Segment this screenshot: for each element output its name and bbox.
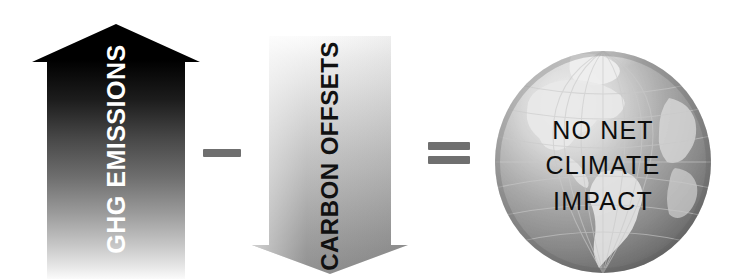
equals-operator [428,140,470,166]
carbon-neutrality-diagram: GHG EMISSIONS [0,0,737,279]
minus-bar [203,149,241,157]
emissions-arrow-label: GHG EMISSIONS [102,44,131,253]
globe: NO NET CLIMATE IMPACT [493,50,713,274]
offsets-arrow-label: CARBON OFFSETS [316,41,344,271]
equals-bar-top [428,142,470,150]
emissions-arrow: GHG EMISSIONS [30,18,202,279]
minus-operator [203,144,241,160]
offsets-arrow: CARBON OFFSETS [250,36,410,276]
equals-bar-bottom [428,156,470,164]
globe-icon [493,50,713,274]
